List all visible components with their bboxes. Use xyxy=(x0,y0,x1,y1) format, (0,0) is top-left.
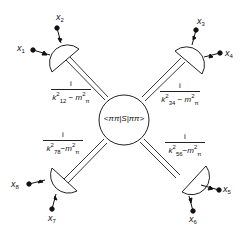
s-matrix-element-label: <ππ|S|ππ> xyxy=(100,114,148,123)
label-x8: x8 xyxy=(11,180,19,190)
label-x6: x6 xyxy=(189,215,197,225)
label-x3: x3 xyxy=(197,17,205,27)
vertex-top-right xyxy=(175,47,205,74)
point-x4 xyxy=(218,51,222,55)
propagator-label-56: i k256−m2π xyxy=(165,133,205,157)
propagator-label-78: i k278−m2π xyxy=(43,131,83,155)
numerator: i xyxy=(160,82,200,91)
denominator: k234 − m2π xyxy=(160,92,200,106)
propagator-label-34: i k234 − m2π xyxy=(160,82,200,106)
denominator: k278−m2π xyxy=(43,141,83,155)
label-x4: x4 xyxy=(225,49,233,59)
numerator: i xyxy=(165,133,205,142)
point-x1 xyxy=(31,48,35,52)
propagator-label-12: i k212 − m2π xyxy=(51,80,91,104)
point-x5 xyxy=(217,188,221,192)
vertex-bottom-left xyxy=(51,168,77,193)
point-x2 xyxy=(55,26,59,30)
label-x7: x7 xyxy=(48,214,56,224)
numerator: i xyxy=(51,80,91,89)
label-x5: x5 xyxy=(223,185,231,195)
point-x3 xyxy=(194,28,198,32)
denominator: k256−m2π xyxy=(165,143,205,157)
label-x2: x2 xyxy=(56,13,64,23)
vertex-top-left xyxy=(49,45,79,72)
point-x6 xyxy=(191,209,195,213)
point-x8 xyxy=(27,182,31,186)
denominator: k212 − m2π xyxy=(51,90,91,104)
numerator: i xyxy=(43,131,83,140)
label-x1: x1 xyxy=(17,44,25,54)
vertex-bottom-right xyxy=(182,166,210,195)
point-x7 xyxy=(50,207,54,211)
